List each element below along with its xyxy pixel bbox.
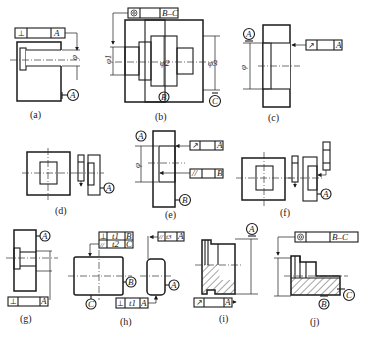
caption-j: (j)	[310, 316, 319, 328]
panel-h: ⊥ t1 B // t2 C B C // t3 A A ⊥ t1 A (h)	[68, 231, 184, 328]
svg-text:φ2: φ2	[160, 58, 170, 68]
svg-text://: //	[158, 233, 164, 241]
caption-c: (c)	[268, 112, 279, 124]
panel-f: A (f)	[236, 142, 331, 219]
panel-c: ↗ A φ A (c)	[238, 25, 342, 124]
panel-i: A ↗ A (i)	[194, 224, 258, 326]
caption-h: (h)	[120, 316, 132, 328]
svg-text:A: A	[137, 131, 144, 141]
panel-d: A (d)	[22, 148, 114, 217]
svg-text:A: A	[105, 183, 112, 193]
caption-i: (i)	[219, 313, 228, 325]
caption-a: (a)	[30, 109, 41, 121]
svg-text:t3: t3	[166, 233, 172, 241]
svg-text:φ3: φ3	[208, 58, 218, 68]
svg-text:⊥: ⊥	[100, 232, 107, 241]
caption-f: (f)	[280, 207, 290, 219]
svg-text:B–C: B–C	[162, 8, 179, 18]
svg-text:A: A	[322, 189, 329, 199]
svg-text:φ: φ	[238, 65, 248, 70]
svg-text:A: A	[170, 280, 177, 290]
caption-e: (e)	[165, 209, 176, 221]
runout-icon: ↗	[308, 41, 315, 50]
svg-text:φ: φ	[69, 55, 79, 60]
panel-b: B–C φ1 φ2 φ3 B C (b)	[103, 8, 221, 123]
svg-text:⊥: ⊥	[10, 297, 17, 306]
svg-text:B–C: B–C	[332, 232, 349, 242]
svg-text:A: A	[248, 224, 255, 234]
coaxiality-icon	[131, 10, 137, 16]
panel-e: ↗ A // B φ A B (e)	[132, 131, 223, 221]
svg-text:A: A	[41, 231, 48, 241]
svg-text:B: B	[217, 168, 223, 178]
svg-text:φ1: φ1	[103, 55, 113, 64]
svg-text:A: A	[53, 28, 60, 38]
svg-text:B: B	[128, 277, 134, 287]
svg-text:C: C	[88, 299, 95, 309]
svg-text:A: A	[40, 296, 47, 306]
svg-text:C: C	[126, 239, 133, 249]
caption-g: (g)	[20, 313, 32, 325]
tolerance-frame-f-2	[323, 142, 330, 170]
panel-j: B–C C B (j)	[274, 232, 358, 328]
svg-text:A: A	[335, 40, 342, 50]
svg-text:A: A	[69, 90, 76, 100]
svg-text:A: A	[140, 298, 147, 308]
svg-text:A: A	[177, 231, 184, 241]
panel-g: A ⊥ A (g)	[6, 230, 58, 325]
svg-text:t1: t1	[129, 298, 136, 308]
svg-text:B: B	[161, 92, 167, 102]
svg-text:C: C	[212, 96, 219, 106]
perpendicularity-icon: ⊥	[18, 29, 25, 38]
svg-text:B: B	[182, 195, 188, 205]
caption-d: (d)	[55, 205, 67, 217]
tolerance-frame-j	[295, 232, 358, 242]
coaxiality-icon-j	[298, 234, 304, 240]
svg-text:A: A	[224, 297, 231, 307]
svg-text:⊥: ⊥	[117, 299, 124, 308]
tolerance-diagram: ⊥ A φ A (a) B–C φ1 φ2	[0, 0, 366, 339]
svg-text:C: C	[346, 290, 353, 300]
tolerance-frame-d	[78, 155, 84, 181]
svg-text:φ: φ	[132, 163, 142, 168]
svg-text:↗: ↗	[192, 141, 199, 150]
caption-b: (b)	[155, 111, 167, 123]
panel-a: ⊥ A φ A (a)	[10, 28, 80, 121]
svg-text:B: B	[321, 299, 327, 309]
svg-text:A: A	[245, 29, 252, 39]
svg-text:t2: t2	[112, 239, 120, 249]
svg-text:A: A	[216, 140, 223, 150]
svg-text:↗: ↗	[196, 298, 203, 307]
